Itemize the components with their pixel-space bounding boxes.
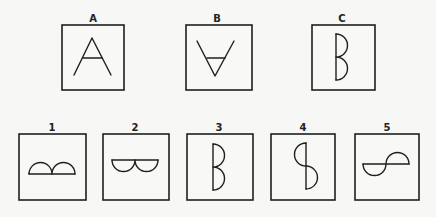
answer-2[interactable]: 2 [103, 122, 169, 200]
label-1: 1 [49, 122, 56, 133]
label-a: A [89, 13, 97, 24]
label-c: C [338, 13, 345, 24]
box-1 [19, 134, 86, 200]
answer-5[interactable]: 5 [355, 122, 419, 200]
label-5: 5 [384, 122, 391, 133]
label-2: 2 [132, 122, 139, 133]
option-b: B [186, 13, 252, 90]
box-5 [355, 134, 419, 200]
label-3: 3 [216, 122, 223, 133]
answer-4[interactable]: 4 [271, 122, 335, 200]
option-a: A [62, 13, 124, 90]
analogy-figure: A B C 1 2 [0, 0, 436, 217]
option-c: C [312, 13, 375, 90]
box-c [312, 25, 375, 90]
answer-3[interactable]: 3 [187, 122, 253, 200]
label-b: B [213, 13, 221, 24]
label-4: 4 [300, 122, 307, 133]
answer-1[interactable]: 1 [19, 122, 86, 200]
box-2 [103, 134, 169, 200]
box-3 [187, 134, 253, 200]
